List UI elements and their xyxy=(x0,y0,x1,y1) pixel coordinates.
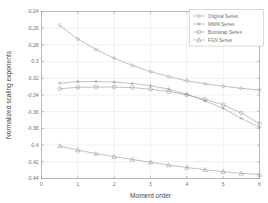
x-tick-label: 4 xyxy=(185,181,188,187)
x-tick-label: 3 xyxy=(149,181,152,187)
figure-container: 0123456 -0.44-0.42-0.4-0.38-0.36-0.34-0.… xyxy=(0,0,268,203)
y-tick-label: -0.38 xyxy=(27,125,39,131)
x-tick-label: 2 xyxy=(113,181,116,187)
y-axis-title: Normalized scaling exponents xyxy=(5,50,13,139)
legend-label: MWM Series xyxy=(208,22,235,27)
chart-legend: Original SeriesMWM SeriesBootstrap Serie… xyxy=(190,10,264,47)
x-tick-label: 1 xyxy=(76,181,79,187)
legend-label: Original Series xyxy=(208,14,239,19)
y-tick-label: -0.34 xyxy=(27,92,39,98)
y-tick-label: -0.42 xyxy=(27,159,39,165)
x-axis-title: Moment order xyxy=(130,192,172,199)
scaling-exponents-chart: 0123456 -0.44-0.42-0.4-0.38-0.36-0.34-0.… xyxy=(0,0,268,203)
x-tick-label: 5 xyxy=(222,181,225,187)
y-tick-label: -0.26 xyxy=(27,25,39,31)
y-tick-label: -0.24 xyxy=(27,8,39,14)
y-tick-label: -0.32 xyxy=(27,75,39,81)
legend-label: FGN Series xyxy=(208,38,233,43)
legend-label: Bootstrap Series xyxy=(208,30,243,35)
y-tick-label: -0.36 xyxy=(27,109,39,115)
y-tick-label: -0.28 xyxy=(27,42,39,48)
x-tick-label: 0 xyxy=(40,181,43,187)
x-tick-label: 6 xyxy=(258,181,261,187)
y-tick-label: -0.4 xyxy=(30,142,39,148)
y-tick-label: -0.3 xyxy=(30,58,39,64)
y-tick-label: -0.44 xyxy=(27,175,39,181)
